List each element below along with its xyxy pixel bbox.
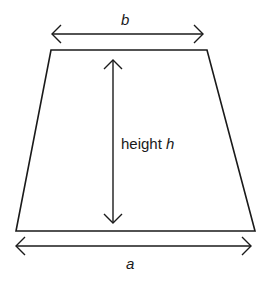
height-dimension-arrow xyxy=(104,60,122,223)
label-height-prefix: height xyxy=(121,135,166,152)
label-height-var: h xyxy=(166,135,174,152)
label-b: b xyxy=(121,12,129,27)
a-dimension-arrow xyxy=(16,237,251,255)
label-a: a xyxy=(126,256,134,271)
label-height: height h xyxy=(121,136,174,151)
